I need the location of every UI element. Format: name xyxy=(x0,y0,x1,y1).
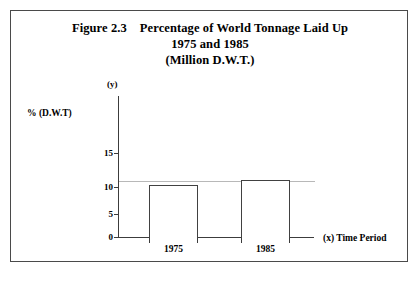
y-tick-mark xyxy=(114,187,119,188)
y-tick-mark xyxy=(114,214,119,215)
figure-container: Figure 2.3Percentage of World Tonnage La… xyxy=(0,0,420,285)
y-axis-line xyxy=(118,96,119,238)
x-tick-mark xyxy=(197,238,198,243)
y-tick-labels: 15 10 5 0 xyxy=(87,11,113,263)
plot-area: (y) % (D.W.T) (x) Time Period 15 10 5 0 xyxy=(11,11,409,263)
y-axis-title: % (D.W.T) xyxy=(27,108,72,118)
x-category-label-1985: 1985 xyxy=(241,244,290,254)
x-tick-mark xyxy=(149,238,150,243)
figure-border: Figure 2.3Percentage of World Tonnage La… xyxy=(10,10,408,262)
y-tick-mark xyxy=(114,153,119,154)
x-axis-title: (x) Time Period xyxy=(323,233,387,243)
y-tick-mark xyxy=(114,237,119,238)
y-tick-label: 15 xyxy=(91,149,113,158)
bar-1985 xyxy=(241,180,290,238)
y-tick-label: 5 xyxy=(91,210,113,219)
x-tick-mark xyxy=(241,238,242,243)
x-category-label-1975: 1975 xyxy=(149,244,198,254)
y-tick-label: 0 xyxy=(91,233,113,242)
bar-1975 xyxy=(149,185,198,238)
y-tick-label: 10 xyxy=(91,183,113,192)
x-tick-mark xyxy=(289,238,290,243)
